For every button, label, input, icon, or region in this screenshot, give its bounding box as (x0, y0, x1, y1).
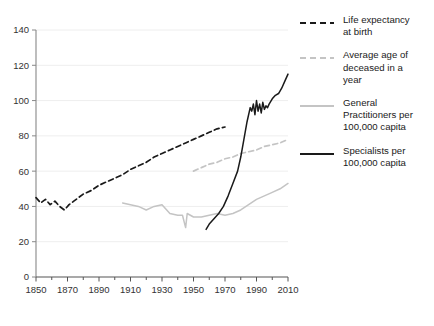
legend-entry[interactable]: General Practitioners per 100,000 capita (300, 97, 434, 134)
line-chart-figure: 020406080100120140 185018701890191019301… (0, 0, 434, 326)
legend-swatch-icon (300, 15, 334, 27)
x-axis-ticks: 185018701890191019301950197019902010 (25, 277, 298, 295)
y-tick-label: 100 (13, 95, 29, 106)
x-tick-label: 1910 (120, 284, 141, 295)
x-tick-label: 2010 (277, 284, 298, 295)
y-tick-label: 0 (24, 271, 29, 282)
x-tick-label: 1890 (88, 284, 109, 295)
legend-swatch-icon (300, 146, 334, 158)
legend-swatch-icon (300, 50, 334, 62)
x-tick-label: 1950 (183, 284, 204, 295)
y-tick-label: 120 (13, 60, 29, 71)
y-tick-label: 140 (13, 24, 29, 35)
x-tick-label: 1970 (214, 284, 235, 295)
series-line-3 (123, 183, 288, 227)
x-tick-label: 1850 (25, 284, 46, 295)
chart-legend: Life expectancy at birthAverage age of d… (300, 14, 434, 180)
y-tick-label: 20 (18, 236, 29, 247)
y-axis-ticks: 020406080100120140 (13, 24, 36, 282)
x-tick-label: 1990 (246, 284, 267, 295)
legend-label: Life expectancy at birth (343, 14, 410, 38)
y-tick-label: 40 (18, 201, 29, 212)
y-tick-label: 60 (18, 166, 29, 177)
series-line-1 (36, 127, 225, 210)
legend-entry[interactable]: Life expectancy at birth (300, 14, 434, 38)
x-tick-label: 1870 (57, 284, 78, 295)
legend-entry[interactable]: Specialists per 100,000 capita (300, 145, 434, 169)
legend-label: Average age of deceased in a year (343, 49, 408, 86)
legend-label: Specialists per 100,000 capita (343, 145, 406, 169)
legend-swatch-icon (300, 98, 334, 110)
legend-entry[interactable]: Average age of deceased in a year (300, 49, 434, 86)
y-tick-label: 80 (18, 130, 29, 141)
x-tick-label: 1930 (151, 284, 172, 295)
gridlines (36, 30, 288, 242)
legend-label: General Practitioners per 100,000 capita (343, 97, 413, 134)
